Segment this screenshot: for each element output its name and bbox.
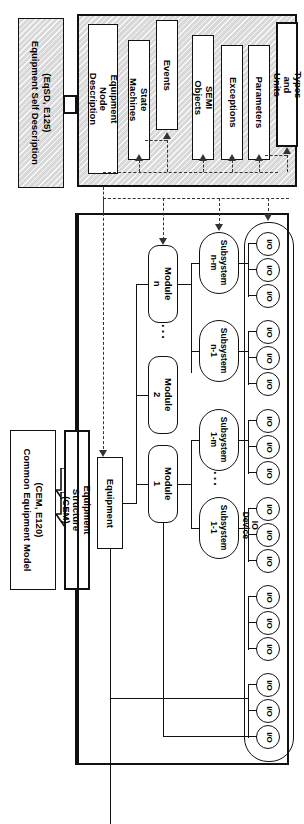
node-subsystem-n-1: Subsystem n-1 xyxy=(199,320,239,382)
eqsd-bus xyxy=(103,172,278,173)
branch-equipment-v xyxy=(103,198,104,454)
stub-types-v xyxy=(287,155,288,172)
node-semi-objects: SEMI Objects xyxy=(192,35,214,160)
arrow-types-and-units xyxy=(283,147,291,154)
node-events: Events xyxy=(156,20,178,130)
io-rail-5 xyxy=(248,596,249,650)
source-eqsd-line1: (EqSD, E125) xyxy=(41,41,53,165)
io-node-label: I/O xyxy=(264,353,273,364)
io-node-label: I/O xyxy=(264,530,273,541)
io-node-label: I/O xyxy=(264,706,273,717)
subsystem-io-link-1 xyxy=(239,528,248,529)
io-node-label: I/O xyxy=(264,379,273,390)
io-node-5-1: I/O xyxy=(256,585,280,609)
stub-events-h xyxy=(145,140,167,141)
io-node-5-2: I/O xyxy=(256,611,280,635)
io-node-label: I/O xyxy=(264,291,273,302)
io-node-2-3: I/O xyxy=(256,372,280,396)
io-node-6-2: I/O xyxy=(256,699,280,723)
arrow-to-module-n xyxy=(159,238,167,245)
io-node-3-2: I/O xyxy=(256,435,280,459)
node-subsystem-1-1: Subsystem 1-1 xyxy=(199,497,239,559)
source-cem-line1: (CEM, E120) xyxy=(33,449,45,572)
node-parameters: Parameters xyxy=(248,45,270,160)
node-equipment-text: Equipment xyxy=(105,478,116,527)
subsystem-io-link-2 xyxy=(239,440,248,441)
io-node-4-1: I/O xyxy=(256,497,280,521)
node-state-machines-text: State Machines xyxy=(128,78,149,121)
io-node-label: I/O xyxy=(264,644,273,655)
node-subsystem-n-1-text: Subsystem n-1 xyxy=(209,328,228,373)
source-box-eqsd: (EqSD, E125)Equipment Self Description xyxy=(18,18,64,188)
arrow-events xyxy=(163,132,171,139)
node-module-n-text: Module n xyxy=(152,267,173,300)
node-module-1: Module 1 xyxy=(148,445,178,523)
equipment-direct-h xyxy=(110,698,248,699)
arrow-semi-objects xyxy=(199,154,207,161)
io-node-label: I/O xyxy=(264,556,273,567)
node-subsystem-1-m: Subsystem 1-m xyxy=(199,409,239,471)
node-parameters-text: Parameters xyxy=(254,77,265,129)
module-stub-1 xyxy=(136,284,148,285)
node-module-2-text: Module 2 xyxy=(152,378,173,411)
module-stub-3 xyxy=(136,484,148,485)
io-rail-1 xyxy=(248,243,249,297)
io-node-label: I/O xyxy=(264,504,273,515)
node-subsystem-1-m-text: Subsystem 1-m xyxy=(209,417,228,462)
stub-types-h xyxy=(265,155,287,156)
arrow-to-subsystem-nm xyxy=(215,224,223,231)
arrow-to-io-device xyxy=(264,214,272,221)
node-subsystem-n-m-text: Subsystem n-m xyxy=(209,240,228,285)
branch-subsystem-nm-v xyxy=(219,198,220,226)
arrow-to-equipment xyxy=(99,450,107,457)
module-ellipsis: ... xyxy=(159,324,174,341)
io-node-label: I/O xyxy=(264,592,273,603)
subsystem-stub-1-1 xyxy=(191,528,199,529)
io-node-label: I/O xyxy=(264,327,273,338)
module-1-direct-h xyxy=(163,736,248,737)
subsystem-io-link-3 xyxy=(239,351,248,352)
subsystem-stub-1-m xyxy=(191,440,199,441)
panel-out-bus xyxy=(103,198,289,199)
io-node-1-2: I/O xyxy=(256,258,280,282)
io-node-label: I/O xyxy=(264,416,273,427)
io-node-2-2: I/O xyxy=(256,346,280,370)
node-equipment: Equipment xyxy=(97,457,123,549)
io-node-2-1: I/O xyxy=(256,320,280,344)
arrow-exceptions xyxy=(228,154,236,161)
stub-exceptions xyxy=(232,160,233,172)
module-n-to-subsystems xyxy=(178,284,192,285)
node-module-n: Module n xyxy=(148,245,178,323)
io-rail-4 xyxy=(248,508,249,562)
subsystem-bus-n xyxy=(191,263,192,373)
node-semi-objects-text: SEMI Objects xyxy=(192,80,213,115)
io-node-label: I/O xyxy=(264,265,273,276)
node-exceptions: Exceptions xyxy=(221,45,243,160)
branch-module-n-v xyxy=(163,198,164,240)
node-subsystem-n-m: Subsystem n-m xyxy=(199,232,239,294)
io-rail-2 xyxy=(248,331,249,385)
module-stub-2 xyxy=(136,395,148,396)
source-box-cem: (CEM, E120)Common Equipment Model xyxy=(10,430,56,590)
io-node-label: I/O xyxy=(264,239,273,250)
node-types-and-units-text: Types and Units xyxy=(271,71,303,98)
eqsd-connector-bar2 xyxy=(75,95,77,114)
equipment-to-modules xyxy=(123,503,137,504)
source-cem-line2: Common Equipment Model xyxy=(21,449,33,572)
subsystem-stub-n-1 xyxy=(191,351,199,352)
node-state-machines: State Machines xyxy=(128,40,150,160)
node-equipment-node-description-text: Equipment Node Description xyxy=(87,73,119,125)
io-node-6-3: I/O xyxy=(256,725,280,749)
io-node-1-3: I/O xyxy=(256,284,280,308)
io-node-label: I/O xyxy=(264,468,273,479)
node-module-2: Module 2 xyxy=(148,356,178,434)
io-node-5-3: I/O xyxy=(256,637,280,661)
io-node-label: I/O xyxy=(264,732,273,743)
arrow-parameters xyxy=(255,154,263,161)
node-subsystem-1-1-text: Subsystem 1-1 xyxy=(209,505,228,550)
module-bus-vertical xyxy=(136,284,137,504)
node-exceptions-text: Exceptions xyxy=(227,77,238,128)
module-1-to-subsystems xyxy=(178,484,192,485)
equipment-direct-v xyxy=(110,549,111,824)
